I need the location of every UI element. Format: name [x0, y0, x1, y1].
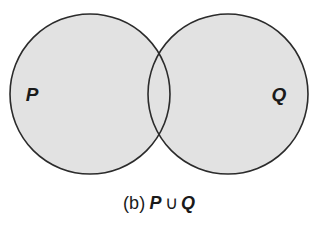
- union-shaded-region: [10, 14, 308, 174]
- figure-caption: (b)P∪Q: [0, 192, 318, 214]
- caption-index: (b): [123, 193, 146, 213]
- union-operator-symbol: ∪: [165, 193, 178, 213]
- caption-right-operand: Q: [181, 193, 195, 213]
- venn-diagram-figure: P Q (b)P∪Q: [0, 0, 318, 230]
- caption-left-operand: P: [149, 193, 161, 213]
- set-p-label: P: [26, 84, 39, 105]
- set-q-label: Q: [272, 84, 287, 105]
